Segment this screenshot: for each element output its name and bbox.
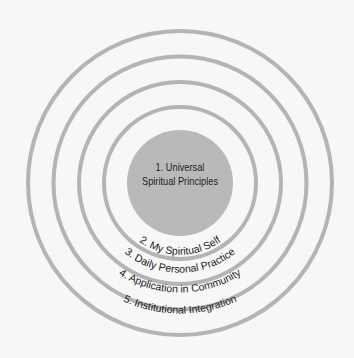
ring-label-5: 5. Institutional Integration (122, 292, 238, 315)
concentric-diagram: 2. My Spiritual Self 3. Daily Personal P… (0, 0, 354, 358)
center-label: 1. Universal Spiritual Principles (136, 160, 224, 188)
center-label-line2: Spiritual Principles (136, 174, 224, 188)
center-label-line1: 1. Universal (136, 160, 224, 174)
